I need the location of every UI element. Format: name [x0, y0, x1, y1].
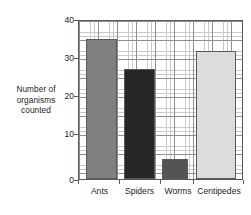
x-tick-mark-4: [243, 180, 244, 184]
bar-spiders: [124, 69, 155, 179]
y-tick-label-10: 10: [54, 130, 74, 139]
x-label-centipedes: Centipedes: [193, 186, 245, 196]
y-tick-label-20: 20: [54, 92, 74, 101]
x-tick-mark-0: [78, 180, 79, 184]
x-tick-mark-3: [193, 180, 194, 184]
x-tick-mark-2: [160, 180, 161, 184]
y-axis-title-line-3: counted: [0, 105, 72, 116]
x-tick-mark-1: [119, 180, 120, 184]
bar-worms: [162, 159, 188, 179]
x-label-worms: Worms: [158, 186, 198, 196]
y-tick-label-0: 0: [54, 176, 74, 185]
x-label-spiders: Spiders: [117, 186, 162, 196]
x-label-ants: Ants: [78, 186, 121, 196]
bar-ants: [86, 39, 117, 179]
bar-chart: Number of organisms counted 40 30 20 10 …: [0, 0, 251, 215]
bar-centipedes: [196, 51, 236, 179]
y-tick-label-30: 30: [54, 54, 74, 63]
plot-area: [78, 20, 243, 180]
y-tick-label-40: 40: [54, 16, 74, 25]
